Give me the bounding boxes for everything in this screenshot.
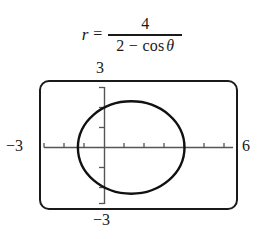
polar-graph-figure: r = 4 2 − cos θ — [0, 0, 264, 239]
x-axis — [44, 143, 233, 148]
denominator-prefix: 2 − — [116, 37, 142, 54]
equation-expression: r = 4 2 − cos θ — [82, 16, 183, 53]
cosine-function: cos — [142, 37, 164, 54]
graphing-window: 3 −3 6 −3 — [0, 60, 264, 239]
graph-canvas — [0, 60, 264, 239]
fraction: 4 2 − cos θ — [108, 16, 182, 53]
window-label-ymax: 3 — [96, 60, 104, 76]
fraction-numerator: 4 — [141, 16, 149, 34]
theta-symbol: θ — [166, 37, 174, 54]
window-label-xmin: −3 — [6, 138, 23, 154]
equals-sign: = — [93, 25, 104, 45]
fraction-denominator: 2 − cos θ — [113, 36, 177, 54]
viewing-window-frame — [40, 81, 237, 209]
window-label-xmax: 6 — [242, 138, 250, 154]
window-label-ymin: −3 — [93, 212, 110, 228]
equation-display: r = 4 2 − cos θ — [0, 6, 264, 64]
equation-variable: r — [82, 25, 90, 45]
